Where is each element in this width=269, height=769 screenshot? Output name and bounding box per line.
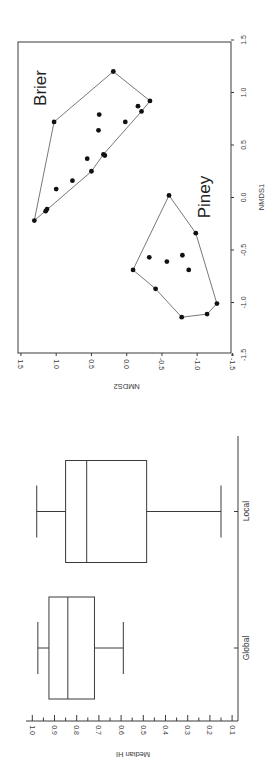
group-hulls <box>34 72 217 318</box>
box-global <box>38 597 123 699</box>
boxes <box>37 461 238 700</box>
point-brier <box>96 128 101 133</box>
median-hi-tick-label: 1.0 <box>29 725 36 735</box>
point-brier <box>136 104 141 109</box>
median-hi-tick-label: 0.9 <box>51 725 58 735</box>
nmds2-tick-label: -1.0 <box>194 358 201 370</box>
nmds1-axis: -1.5-1.0-0.50.00.51.01.5 <box>231 35 247 361</box>
category-label-local: Local <box>241 501 251 521</box>
median-hi-boxplot: 0.10.20.30.40.50.60.70.80.91.0 Local Glo… <box>26 436 251 759</box>
nmds1-tick-label: -1.0 <box>240 296 247 308</box>
group-label-piney: Piney <box>195 175 214 218</box>
point-brier <box>32 218 37 223</box>
point-piney <box>167 193 172 198</box>
point-brier <box>102 153 107 158</box>
nmds1-axis-title: NMDS1 <box>257 184 266 210</box>
median-hi-tick-label: 0.4 <box>162 725 169 735</box>
point-piney <box>131 268 136 273</box>
point-piney <box>205 312 210 317</box>
median-hi-axis-title: Median HI <box>116 750 150 759</box>
point-brier <box>52 120 57 125</box>
nmds2-tick-label: 1.5 <box>17 359 24 369</box>
nmds1-tick-label: 1.0 <box>240 88 247 98</box>
median-hi-tick-label: 0.1 <box>229 725 236 735</box>
median-hi-tick-label: 0.6 <box>118 725 125 735</box>
point-brier <box>85 156 90 161</box>
iqr-box <box>66 461 147 563</box>
nmds2-axis: -1.5-1.0-0.50.00.51.01.5 <box>17 353 236 370</box>
point-piney <box>186 268 191 273</box>
point-piney <box>179 315 184 320</box>
median-hi-tick-label: 0.3 <box>184 725 191 735</box>
nmds1-tick-label: 0.0 <box>240 193 247 203</box>
nmds2-axis-title: NMDS2 <box>114 382 140 391</box>
nmds2-tick-label: -0.5 <box>158 358 165 370</box>
nmds2-tick-label: -1.5 <box>229 358 236 370</box>
iqr-box <box>49 597 95 699</box>
point-piney <box>147 255 152 260</box>
nmds-scatter-plot: -1.5-1.0-0.50.00.51.01.5 -1.5-1.0-0.50.0… <box>17 35 266 391</box>
point-brier <box>70 178 75 183</box>
data-points <box>32 69 219 320</box>
nmds2-tick-label: 0.5 <box>88 359 95 369</box>
median-hi-axis: 0.10.20.30.40.50.60.70.80.91.0 <box>29 715 236 735</box>
point-piney <box>153 286 158 291</box>
point-brier <box>43 209 48 214</box>
median-hi-tick-label: 0.5 <box>140 725 147 735</box>
median-hi-tick-label: 0.7 <box>95 725 102 735</box>
nmds1-tick-label: -0.5 <box>240 244 247 256</box>
group-label-brier: Brier <box>31 70 50 106</box>
point-piney <box>164 259 169 264</box>
point-piney <box>180 253 185 258</box>
nmds1-tick-label: -1.5 <box>240 349 247 361</box>
figure: -1.5-1.0-0.50.00.51.01.5 -1.5-1.0-0.50.0… <box>0 0 269 769</box>
point-brier <box>54 187 59 192</box>
point-brier <box>89 169 94 174</box>
hull-brier <box>34 72 150 221</box>
point-brier <box>139 109 144 114</box>
point-brier <box>97 112 102 117</box>
nmds1-tick-label: 1.5 <box>240 35 247 45</box>
nmds2-tick-label: 1.0 <box>53 359 60 369</box>
median-hi-tick-label: 0.2 <box>206 725 213 735</box>
median-hi-tick-label: 0.8 <box>73 725 80 735</box>
point-brier <box>123 120 128 125</box>
nmds1-tick-label: 0.5 <box>240 140 247 150</box>
category-label-global: Global <box>241 636 251 661</box>
point-piney <box>193 231 198 236</box>
point-brier <box>148 99 153 104</box>
box-local <box>37 461 221 563</box>
point-piney <box>215 301 220 306</box>
point-brier <box>111 69 116 74</box>
nmds2-tick-label: 0.0 <box>123 359 130 369</box>
